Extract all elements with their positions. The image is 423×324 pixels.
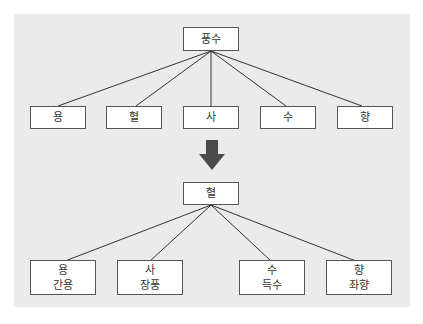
node-top-hyeol: 혈 (106, 106, 162, 129)
node-top-hyang: 향 (337, 106, 393, 129)
node-label: 용 (58, 263, 68, 278)
node-sublabel: 장풍 (140, 278, 160, 293)
node-top-sa: 사 (183, 106, 239, 129)
node-label: 혈 (129, 110, 139, 125)
edge-bottom-2 (150, 205, 211, 261)
node-label: 사 (145, 263, 155, 278)
node-sublabel: 좌향 (349, 278, 369, 293)
edge-top-1 (58, 51, 211, 106)
node-label: 향 (360, 110, 370, 125)
node-sublabel: 간용 (53, 278, 73, 293)
node-label: 사 (206, 110, 216, 125)
edge-top-2 (136, 51, 211, 106)
node-sublabel: 득수 (262, 278, 282, 293)
node-bottom-yong: 용 간용 (30, 260, 96, 295)
node-pungsu-root: 풍수 (183, 27, 239, 51)
node-label: 수 (283, 110, 293, 125)
node-bottom-su: 수 득수 (239, 260, 305, 295)
edge-top-4 (211, 51, 286, 106)
edge-bottom-1 (65, 205, 211, 261)
node-hyeol-root: 혈 (183, 182, 239, 205)
node-top-yong: 용 (30, 106, 86, 129)
node-bottom-sa: 사 장풍 (117, 260, 183, 295)
edge-top-5 (211, 51, 362, 106)
node-label: 수 (267, 263, 277, 278)
edge-bottom-4 (211, 205, 356, 261)
node-label: 용 (53, 110, 63, 125)
node-bottom-hyang: 향 좌향 (326, 260, 392, 295)
node-label: 풍수 (201, 32, 221, 47)
node-label: 혈 (206, 186, 216, 201)
down-arrow-icon (199, 140, 225, 170)
node-top-su: 수 (260, 106, 316, 129)
edge-bottom-3 (211, 205, 271, 261)
node-label: 향 (354, 263, 364, 278)
